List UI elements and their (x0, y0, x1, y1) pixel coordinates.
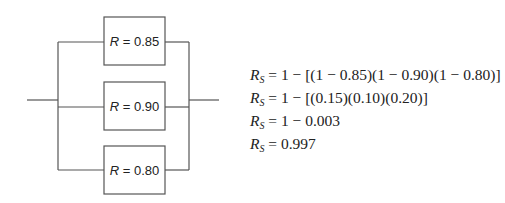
equation-line-4: RS = 0.997 (250, 132, 501, 155)
equation-block: RS = 1 − [(1 − 0.85)(1 − 0.90)(1 − 0.80)… (250, 63, 501, 155)
equation-line-2: RS = 1 − [(0.15)(0.10)(0.20)] (250, 86, 501, 109)
block-2-label: R = 0.90 (110, 99, 160, 114)
equation-line-3: RS = 1 − 0.003 (250, 109, 501, 132)
reliability-block-diagram: R = 0.85 R = 0.90 R = 0.80 (0, 0, 240, 203)
block-1-label: R = 0.85 (110, 34, 160, 49)
block-3-label: R = 0.80 (110, 163, 160, 178)
equation-line-1: RS = 1 − [(1 − 0.85)(1 − 0.90)(1 − 0.80)… (250, 63, 501, 86)
